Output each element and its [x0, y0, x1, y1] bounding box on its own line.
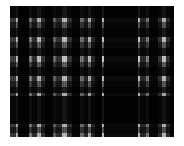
plaid-fabric-swatch: [10, 6, 174, 137]
image-canvas: [0, 0, 184, 146]
yarn-grain-horizontal-striation: [10, 6, 174, 137]
